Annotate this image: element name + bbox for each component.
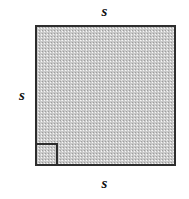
side-label-bottom: s: [0, 176, 189, 191]
side-label-top: s: [0, 4, 189, 19]
geometry-figure: s s s: [0, 0, 189, 199]
right-angle-icon: [35, 143, 58, 166]
side-label-left: s: [15, 88, 29, 103]
